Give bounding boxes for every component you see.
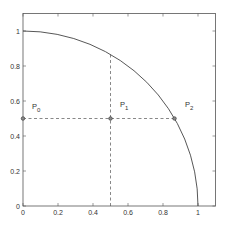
point-p1-marker	[109, 117, 113, 121]
point-p0-label: P0	[32, 102, 41, 113]
point-p2-marker	[173, 117, 177, 121]
y-tick-label: 0.8	[10, 63, 20, 70]
y-tick-label: 0.6	[10, 98, 20, 105]
x-tick-label: 1	[196, 209, 200, 216]
x-tick-label: 0.2	[53, 209, 63, 216]
point-p1-label: P1	[120, 100, 129, 111]
point-p2-label: P2	[185, 100, 194, 111]
axes-box	[23, 14, 216, 207]
point-p0-marker	[21, 117, 25, 121]
y-tick-label: 0.2	[10, 168, 20, 175]
x-tick-label: 0.8	[158, 209, 168, 216]
y-tick-label: 0	[16, 203, 20, 210]
x-tick-label: 0	[21, 209, 25, 216]
x-tick-label: 0.4	[88, 209, 98, 216]
y-tick-label: 1	[16, 28, 20, 35]
x-tick-label: 0.6	[123, 209, 133, 216]
y-tick-label: 0.4	[10, 133, 20, 140]
chart: 0 0.2 0.4 0.6 0.8 1 0 0.2 0.4 0.6 0.8 1 …	[0, 0, 228, 226]
